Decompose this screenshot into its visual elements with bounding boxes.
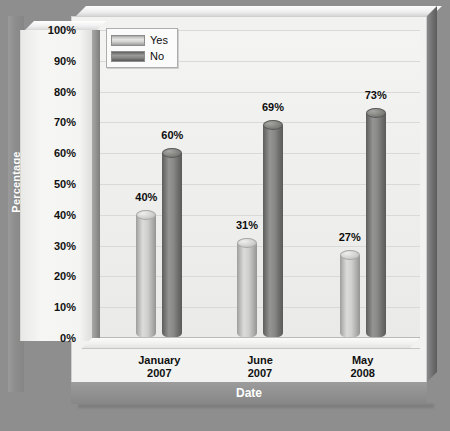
legend-item-yes[interactable]: Yes (111, 32, 173, 48)
legend-label-no: No (150, 51, 164, 62)
card-right-bevel (427, 6, 437, 382)
card-shadow (78, 404, 434, 408)
x-axis-category-line: January (104, 354, 214, 367)
y-axis-tick-label: 70% (8, 117, 76, 128)
x-axis-category-line: June (205, 354, 315, 367)
y-axis-tick-label: 20% (8, 271, 76, 282)
bar-value-label: 60% (161, 129, 183, 141)
bar-value-label: 31% (236, 219, 258, 231)
x-axis-category-line: 2007 (104, 367, 214, 380)
y-axis-tick-label: 50% (8, 179, 76, 190)
bar-no-0[interactable]: 60% (162, 153, 182, 338)
x-axis-category-label: January2007 (104, 354, 214, 380)
x-axis-title: Date (71, 386, 427, 400)
bar-value-label: 69% (262, 101, 284, 113)
y-axis-tick-label: 10% (8, 302, 76, 313)
bar-no-1[interactable]: 69% (263, 125, 283, 338)
x-axis-category-label: May2008 (308, 354, 418, 380)
x-axis-category-line: 2008 (308, 367, 418, 380)
bar-yes-0[interactable]: 40% (136, 215, 156, 338)
chart-root: Percentage 40%60%31%69%27%73% 0%10%20%30… (0, 0, 450, 431)
legend[interactable]: Yes No (106, 28, 178, 68)
bar-top-cap (340, 250, 360, 260)
plot-area: 40%60%31%69%27%73% (100, 30, 420, 338)
bar-body (263, 125, 283, 338)
bar-no-2[interactable]: 73% (366, 113, 386, 338)
bar-body (162, 153, 182, 338)
y-axis-tick-label: 40% (8, 210, 76, 221)
bar-value-label: 27% (339, 231, 361, 243)
x-axis-category-line: 2007 (205, 367, 315, 380)
bar-top-cap (136, 210, 156, 220)
y-axis-tick-label: 0% (8, 333, 76, 344)
bar-value-label: 40% (135, 191, 157, 203)
bar-top-cap (366, 108, 386, 118)
bar-yes-2[interactable]: 27% (340, 255, 360, 338)
plot-baseline (100, 337, 420, 338)
y-axis-slab-side (92, 30, 100, 341)
y-axis-tick-label: 60% (8, 148, 76, 159)
y-axis-tick-label: 100% (8, 25, 76, 36)
bar-top-cap (237, 238, 257, 248)
bar-body (366, 113, 386, 338)
x-axis-title-band: Date (71, 382, 427, 404)
bar-value-label: 73% (365, 89, 387, 101)
y-axis-tick-label: 90% (8, 56, 76, 67)
x-axis-category-line: May (308, 354, 418, 367)
y-axis-tick-label: 80% (8, 87, 76, 98)
y-axis-tick-label: 30% (8, 241, 76, 252)
legend-item-no[interactable]: No (111, 48, 173, 64)
bar-body (237, 243, 257, 338)
x-axis-category-label: June2007 (205, 354, 315, 380)
card-top-bevel (76, 6, 442, 16)
legend-swatch-no-icon (111, 51, 145, 62)
bar-body (136, 215, 156, 338)
bar-yes-1[interactable]: 31% (237, 243, 257, 338)
bar-body (340, 255, 360, 338)
legend-swatch-yes-icon (111, 35, 145, 46)
plot-floor-front-edge (82, 348, 420, 349)
legend-label-yes: Yes (150, 35, 168, 46)
